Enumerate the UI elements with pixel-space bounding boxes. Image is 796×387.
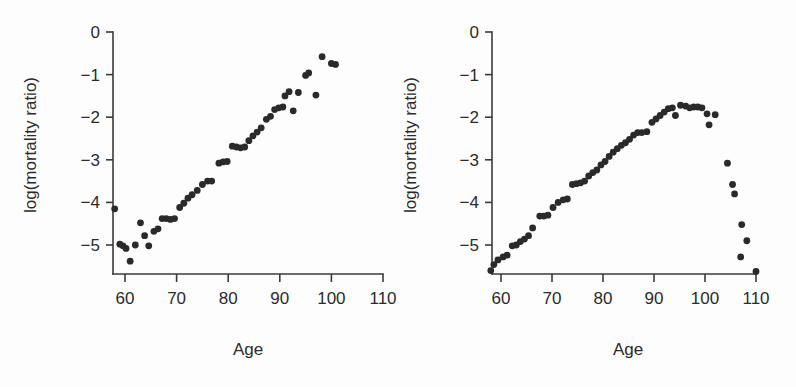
x-axis-title: Age [613,340,643,359]
data-point [545,212,552,219]
data-point [487,267,494,274]
data-point [286,88,293,95]
y-tick-label: −5 [460,236,479,255]
y-axis-title: log(mortality ratio) [21,77,40,213]
data-point [208,178,215,185]
data-point [280,104,287,111]
data-point [743,237,750,244]
x-tick-label: 70 [543,289,562,308]
y-tick-label: −2 [81,108,100,127]
data-point [737,254,744,261]
x-tick-label: 110 [742,289,769,308]
data-point [155,225,162,232]
data-point [564,196,571,203]
data-point [712,111,719,118]
data-point [145,242,152,249]
y-tick-label: −3 [460,151,479,170]
scatter-plot-right: 0−1−2−3−4−560708090100110Agelog(mortalit… [398,0,796,387]
x-axis: 60708090100110 [492,274,770,308]
data-point [672,112,679,119]
data-point [313,92,320,99]
x-tick-label: 100 [691,289,719,308]
data-point [753,268,760,275]
data-point [267,113,274,120]
data-point [295,89,302,96]
data-point-series [487,102,759,275]
data-point [171,215,178,222]
data-point [729,181,736,188]
data-point [504,252,511,259]
chart-panel-left: 0−1−2−3−4−560708090100110Agelog(mortalit… [0,0,398,387]
data-point [550,204,557,211]
y-tick-label: −4 [81,193,100,212]
x-tick-label: 70 [167,289,186,308]
data-point [123,245,130,252]
data-point [132,242,139,249]
data-point [290,107,297,114]
data-point [127,258,134,265]
data-point [529,225,536,232]
y-tick-label: 0 [91,23,100,42]
data-point [669,104,676,111]
data-point [305,70,312,77]
data-point [643,128,650,135]
x-tick-label: 80 [594,289,613,308]
x-tick-label: 60 [492,289,511,308]
data-point [241,144,248,151]
data-point [141,232,148,239]
data-point [258,124,265,131]
data-point-series [111,53,339,264]
y-tick-label: −1 [460,66,479,85]
scatter-plot-left: 0−1−2−3−4−560708090100110Agelog(mortalit… [0,0,398,387]
data-point [706,121,713,128]
data-point [111,205,118,212]
x-tick-label: 90 [270,289,289,308]
y-tick-label: −3 [81,151,100,170]
y-axis-title: log(mortality ratio) [401,77,420,213]
y-tick-label: −2 [460,108,479,127]
x-axis: 60708090100110 [113,274,397,308]
y-tick-label: 0 [470,23,479,42]
data-point [699,104,706,111]
x-tick-label: 80 [219,289,238,308]
data-point [194,187,201,194]
data-point [731,190,738,197]
data-point [319,53,326,60]
x-tick-label: 110 [369,289,396,308]
data-point [738,221,745,228]
data-point [224,158,231,165]
y-tick-label: −5 [81,236,100,255]
data-point [525,232,532,239]
y-tick-label: −1 [81,66,100,85]
data-point [332,61,339,68]
data-point [704,110,711,117]
x-tick-label: 60 [116,289,135,308]
figure-container: 0−1−2−3−4−560708090100110Agelog(mortalit… [0,0,796,387]
x-tick-label: 100 [317,289,345,308]
x-axis-title: Age [233,340,263,359]
y-tick-label: −4 [460,193,479,212]
y-axis: 0−1−2−3−4−5 [81,23,113,274]
y-axis: 0−1−2−3−4−5 [460,23,492,274]
data-point [724,160,731,167]
data-point [137,219,144,226]
x-tick-label: 90 [645,289,664,308]
chart-panel-right: 0−1−2−3−4−560708090100110Agelog(mortalit… [398,0,796,387]
